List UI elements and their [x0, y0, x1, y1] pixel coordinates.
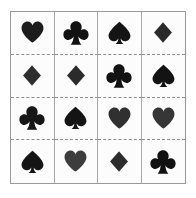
- club-icon: [150, 149, 176, 175]
- suit-cell-r3c1: [11, 98, 55, 141]
- club-icon: [106, 63, 132, 89]
- heart-icon: [20, 20, 45, 45]
- suit-cell-r1c1: [11, 12, 55, 55]
- suit-cell-r4c3: [98, 140, 142, 183]
- spade-icon: [20, 149, 45, 175]
- diamond-icon: [152, 19, 174, 46]
- suit-grid-image: [0, 0, 196, 198]
- suit-cell-r4c4: [142, 140, 186, 183]
- spade-icon: [63, 105, 88, 131]
- suit-cell-r3c2: [55, 98, 99, 141]
- suit-cell-r1c2: [55, 12, 99, 55]
- suit-cell-r2c1: [11, 55, 55, 98]
- suit-cell-r1c4: [142, 12, 186, 55]
- heart-icon: [107, 106, 132, 131]
- heart-icon: [63, 149, 88, 174]
- spade-icon: [151, 63, 176, 89]
- suit-cell-r3c3: [98, 98, 142, 141]
- suit-cell-r4c1: [11, 140, 55, 183]
- suit-cell-r1c3: [98, 12, 142, 55]
- suit-grid: [10, 11, 186, 184]
- suit-cell-r3c4: [142, 98, 186, 141]
- diamond-icon: [65, 62, 87, 89]
- club-icon: [63, 20, 89, 46]
- spade-icon: [107, 20, 132, 46]
- suit-cell-r4c2: [55, 140, 99, 183]
- suit-cell-r2c2: [55, 55, 99, 98]
- club-icon: [19, 105, 45, 131]
- heart-icon: [151, 106, 176, 131]
- suit-cell-r2c3: [98, 55, 142, 98]
- suit-cell-r2c4: [142, 55, 186, 98]
- diamond-icon: [108, 148, 130, 175]
- diamond-icon: [21, 62, 43, 89]
